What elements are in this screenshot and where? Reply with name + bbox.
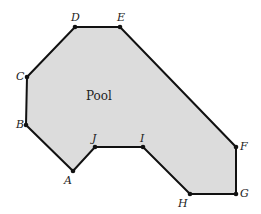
vertex-label-i: I: [139, 132, 145, 145]
vertex-label-d: D: [70, 11, 80, 24]
vertex-point-e: [118, 25, 123, 30]
vertex-label-h: H: [177, 197, 188, 210]
vertex-label-f: F: [239, 140, 248, 153]
vertex-point-a: [71, 169, 76, 174]
vertex-point-f: [234, 145, 239, 150]
vertex-label-b: B: [15, 118, 24, 131]
vertex-label-j: J: [90, 132, 97, 145]
pool-diagram: ABCDEFGHIJ Pool: [0, 0, 261, 214]
vertex-point-g: [234, 192, 239, 197]
vertex-label-g: G: [240, 187, 249, 200]
pool-polygon: [26, 27, 236, 194]
vertex-point-b: [24, 123, 29, 128]
vertex-label-c: C: [16, 70, 25, 83]
vertex-label-a: A: [63, 174, 72, 187]
vertex-label-e: E: [116, 11, 125, 24]
pool-label: Pool: [86, 89, 112, 103]
vertex-point-h: [188, 192, 193, 197]
vertex-point-i: [141, 145, 146, 150]
vertex-point-c: [25, 75, 30, 80]
vertex-point-j: [93, 145, 98, 150]
vertex-point-d: [73, 25, 78, 30]
